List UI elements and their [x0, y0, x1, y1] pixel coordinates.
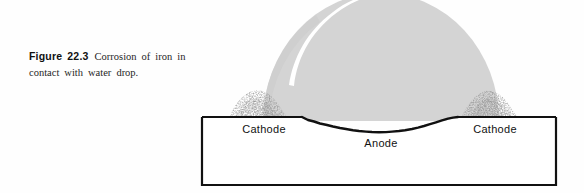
label-cathode-left: Cathode	[242, 123, 286, 135]
figure-caption-number: 22.3	[67, 50, 88, 62]
figure-caption-label: Figure	[29, 50, 62, 62]
figure-caption: Figure22.3Corrosion of iron in contact w…	[29, 48, 201, 79]
figure-container: Figure22.3Corrosion of iron in contact w…	[0, 0, 584, 193]
diagram-svg: Cathode Anode Cathode	[196, 0, 584, 193]
corrosion-diagram: Cathode Anode Cathode	[196, 0, 584, 193]
label-cathode-right: Cathode	[473, 123, 517, 135]
label-anode: Anode	[364, 137, 397, 149]
